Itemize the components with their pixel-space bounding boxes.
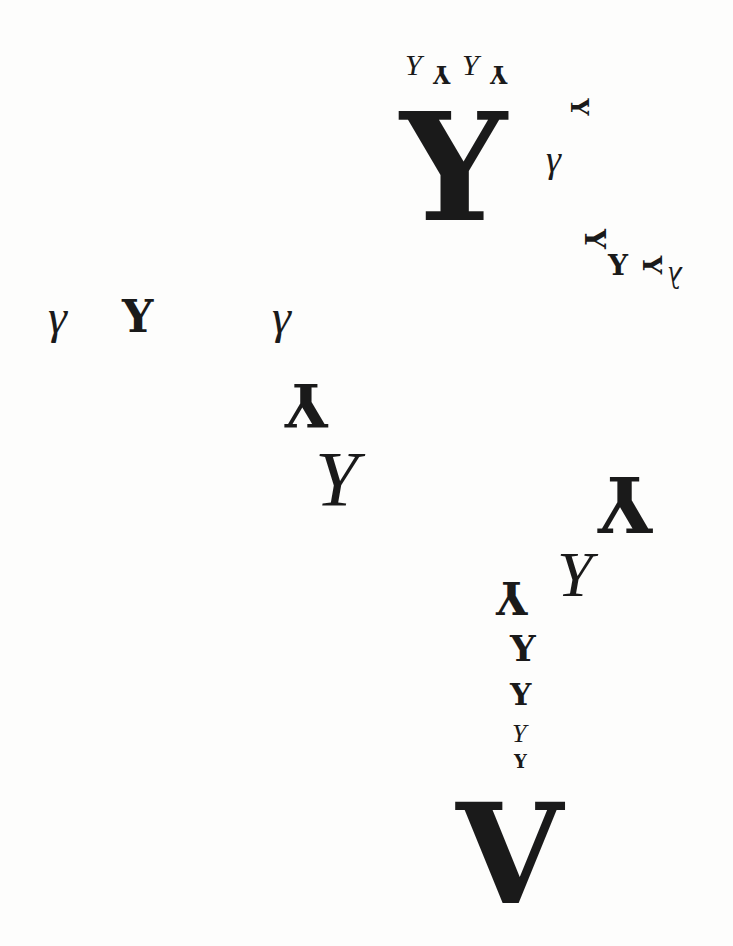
glyph-lambda-right: λ — [668, 262, 682, 294]
glyph-top-italic-1: Y — [405, 50, 422, 80]
glyph-upright-small-y: Y — [608, 252, 628, 280]
glyph-gamma-left: γ — [48, 293, 67, 341]
glyph-y-stack-3: Y — [512, 721, 526, 747]
glyph-y-stack-2: Y — [510, 680, 531, 710]
glyph-inverted-y-mid: Y — [285, 375, 328, 435]
glyph-gamma-mid: γ — [272, 293, 291, 341]
typographic-composition: YYYYYYγYYYλγYγYYYYYYYYYV — [0, 0, 733, 946]
glyph-inverted-y-small: Y — [496, 575, 527, 619]
glyph-gamma-top: γ — [546, 140, 561, 178]
glyph-big-y: Y — [400, 92, 507, 242]
glyph-sideways-y-3: Y — [639, 256, 665, 275]
glyph-inverted-y-right: Y — [598, 465, 652, 541]
glyph-italic-y-right: Y — [557, 543, 593, 607]
glyph-small-sideways-y: Y — [567, 98, 591, 115]
glyph-top-italic-2: Y — [462, 50, 479, 80]
glyph-big-v: V — [456, 786, 563, 924]
glyph-sideways-y-2: Y — [580, 229, 608, 249]
glyph-italic-y-mid: Y — [315, 440, 358, 518]
glyph-y-left: Y — [122, 295, 153, 339]
glyph-y-stack-1: Y — [510, 630, 536, 666]
glyph-y-stack-4: Y — [514, 753, 527, 771]
